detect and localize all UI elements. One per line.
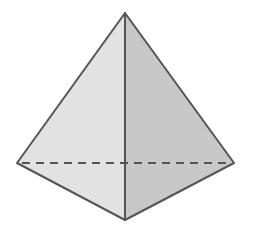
- right-face: [125, 13, 234, 220]
- tetrahedron-diagram: [0, 0, 254, 230]
- left-face: [17, 13, 125, 220]
